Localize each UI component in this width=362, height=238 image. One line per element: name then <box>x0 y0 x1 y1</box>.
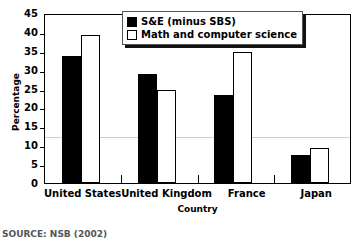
x-axis-title: Country <box>44 204 351 214</box>
source-note: SOURCE: NSB (2002) <box>2 229 107 238</box>
x-tick-label: France <box>212 188 282 199</box>
y-tick-label: 0 <box>12 179 38 189</box>
bar[interactable] <box>81 35 100 183</box>
legend-label-se-minus-sbs: S&E (minus SBS) <box>141 16 236 27</box>
y-tick-label: 35 <box>12 47 38 57</box>
x-axis-tick-labels: United StatesUnited KingdomFranceJapan <box>44 188 351 199</box>
bar-chart-figure: Percentage 051015202530354045 United Sta… <box>0 0 362 238</box>
y-tick-mark <box>40 147 45 148</box>
bar[interactable] <box>157 90 176 183</box>
x-tick-label: United Kingdom <box>121 188 212 199</box>
y-tick-mark <box>40 91 45 92</box>
y-tick-label: 40 <box>12 28 38 38</box>
bar-group <box>45 15 121 183</box>
bar[interactable] <box>233 52 252 183</box>
legend-swatch-se-minus-sbs <box>127 17 137 27</box>
y-tick-mark <box>40 72 45 73</box>
bar[interactable] <box>310 148 329 183</box>
y-tick-label: 30 <box>12 66 38 76</box>
y-tick-mark <box>40 109 45 110</box>
y-tick-label: 25 <box>12 85 38 95</box>
bar[interactable] <box>214 95 233 183</box>
y-axis-tick-labels: 051015202530354045 <box>12 0 38 238</box>
bar[interactable] <box>138 74 157 183</box>
bar[interactable] <box>62 56 81 183</box>
legend-label-math-computer-science: Math and computer science <box>141 29 297 40</box>
y-tick-label: 10 <box>12 141 38 151</box>
chart-legend: S&E (minus SBS) Math and computer scienc… <box>122 11 303 45</box>
y-tick-label: 15 <box>12 122 38 132</box>
legend-entry: S&E (minus SBS) <box>127 15 297 28</box>
y-tick-mark <box>40 166 45 167</box>
x-tick-label: Japan <box>281 188 351 199</box>
bar[interactable] <box>291 155 310 183</box>
y-tick-label: 5 <box>12 160 38 170</box>
y-tick-label: 20 <box>12 103 38 113</box>
x-tick-label: United States <box>44 188 121 199</box>
legend-swatch-math-computer-science <box>127 30 137 40</box>
y-tick-label: 45 <box>12 9 38 19</box>
y-tick-mark <box>40 128 45 129</box>
y-tick-mark <box>40 34 45 35</box>
y-tick-mark <box>40 53 45 54</box>
legend-entry: Math and computer science <box>127 28 297 41</box>
